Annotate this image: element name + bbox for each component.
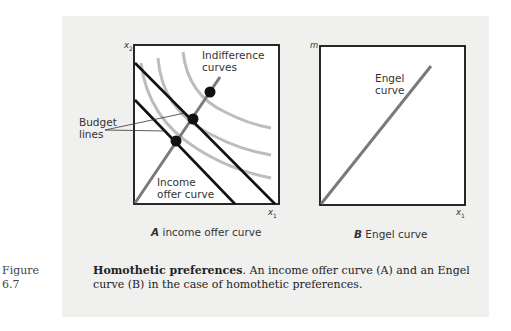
optimal-point-1 [171, 136, 182, 147]
panel-b-y-axis-label: m [310, 40, 318, 50]
panel-a-x-axis-label: x1 [268, 207, 277, 219]
figure-number: Figure 6.7 [2, 264, 39, 292]
optimal-point-2 [188, 114, 199, 125]
optimal-point-3 [205, 87, 216, 98]
panel-b-subcaption: B Engel curve [354, 228, 427, 240]
panel-b-x-axis-label: x1 [456, 207, 465, 219]
figure-caption: Homothetic preferences. An income offer … [93, 264, 473, 292]
income-offer-curve-label: Income offer curve [157, 176, 214, 200]
budget-lines-label: Budget lines [79, 116, 117, 140]
panel-a-y-axis-label: x2 [124, 40, 133, 52]
panel-b-plot-box [320, 46, 465, 205]
indifference-curves-label: Indifference curves [202, 49, 264, 73]
engel-curve-label: Engel curve [375, 72, 404, 96]
panel-a-subcaption: A income offer curve [151, 226, 261, 238]
